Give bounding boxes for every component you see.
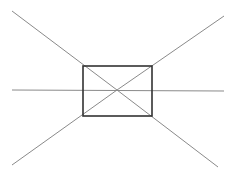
vanishing-line-lower-left — [12, 90, 117, 165]
vanishing-line-upper-left — [12, 11, 117, 90]
vanishing-lines — [12, 11, 224, 167]
vanishing-line-lower-right — [117, 90, 218, 167]
horizon-line — [12, 90, 224, 91]
perspective-diagram — [0, 0, 234, 176]
vanishing-line-upper-right — [117, 16, 224, 90]
